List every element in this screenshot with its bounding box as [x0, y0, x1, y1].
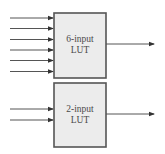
lut6-label-line1: 6-input [66, 34, 94, 44]
lut2-label-line2: LUT [71, 115, 90, 125]
lut6-block: 6-input LUT [10, 13, 154, 78]
lut2-input-arrows [10, 109, 53, 120]
lut2-block: 2-input LUT [10, 83, 154, 147]
lut6-label-line2: LUT [71, 45, 90, 55]
diagram-svg: 6-input LUT 2-input LUT [0, 0, 165, 154]
lut-diagram: 6-input LUT 2-input LUT [0, 0, 165, 154]
lut2-label-line1: 2-input [66, 104, 94, 114]
lut6-input-arrows [10, 18, 53, 72]
